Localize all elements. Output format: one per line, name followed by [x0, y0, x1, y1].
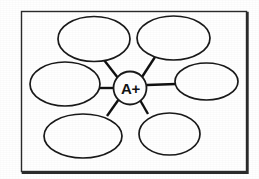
- oval-top-left[interactable]: [58, 17, 130, 62]
- connector-center-to-bottom-left: [107, 99, 119, 116]
- oval-bottom-right[interactable]: [139, 113, 200, 155]
- center-node-group: A+: [114, 72, 147, 105]
- connector-center-to-top-left: [104, 60, 118, 78]
- oval-right[interactable]: [175, 63, 238, 100]
- oval-left[interactable]: [30, 62, 100, 106]
- cluster-web-diagram: A+: [0, 0, 259, 179]
- center-node-label: A+: [121, 80, 141, 97]
- diagram-page: A+: [0, 0, 259, 179]
- connector-center-to-right: [147, 84, 176, 85]
- oval-top-right[interactable]: [137, 16, 210, 60]
- connector-center-to-bottom-right: [140, 100, 148, 114]
- connector-center-to-top-right: [142, 57, 155, 77]
- oval-bottom-left[interactable]: [44, 114, 122, 158]
